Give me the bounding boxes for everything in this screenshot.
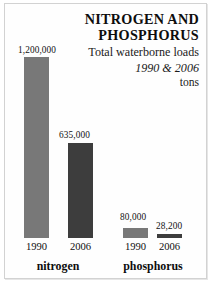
year-label-phosphorus-1990: 1990 bbox=[123, 241, 148, 252]
plot-area: 1,200,000 1990 635,000 2006 nitrogen 80,… bbox=[0, 0, 213, 292]
chart-figure: NITROGEN AND PHOSPHORUS Total waterborne… bbox=[0, 0, 213, 292]
group-label-nitrogen: nitrogen bbox=[22, 259, 94, 274]
bar-nitrogen-1990 bbox=[24, 57, 49, 238]
value-label-phosphorus-1990: 80,000 bbox=[120, 212, 146, 222]
year-label-nitrogen-1990: 1990 bbox=[24, 241, 49, 252]
bar-nitrogen-2006 bbox=[68, 143, 93, 238]
bar-phosphorus-2006 bbox=[157, 234, 182, 238]
value-label-nitrogen-2006: 635,000 bbox=[59, 130, 90, 140]
year-label-phosphorus-2006: 2006 bbox=[157, 241, 182, 252]
value-label-phosphorus-2006: 28,200 bbox=[156, 221, 182, 231]
value-label-nitrogen-1990: 1,200,000 bbox=[18, 45, 56, 55]
year-label-nitrogen-2006: 2006 bbox=[68, 241, 93, 252]
group-label-phosphorus: phosphorus bbox=[117, 259, 189, 274]
bar-phosphorus-1990 bbox=[123, 228, 148, 238]
